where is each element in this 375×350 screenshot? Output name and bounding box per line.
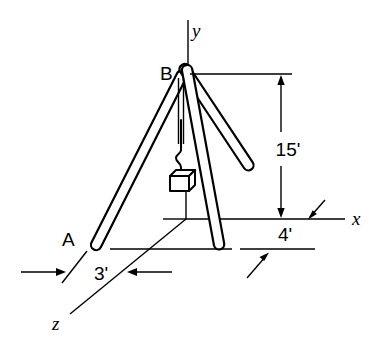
label-axis-y: y bbox=[190, 20, 201, 41]
dimension-label-15ft: 15' bbox=[276, 139, 301, 160]
dimension-3ft: 3' bbox=[21, 251, 172, 284]
arrowhead-3ft-left bbox=[56, 268, 66, 276]
tripod-legs bbox=[91, 64, 254, 250]
ext-tick-3ft-left bbox=[62, 251, 87, 283]
label-point-b: B bbox=[160, 63, 173, 84]
arrowhead-down-15ft bbox=[277, 208, 284, 218]
arrowhead-3ft-right bbox=[127, 268, 137, 276]
arrowhead-4ft-lower bbox=[260, 253, 270, 262]
leg-a bbox=[91, 71, 187, 250]
crate-front-face bbox=[170, 176, 189, 191]
dimension-label-4ft: 4' bbox=[278, 224, 292, 245]
label-axis-x: x bbox=[351, 208, 361, 229]
suspended-load bbox=[170, 170, 195, 191]
hook-icon bbox=[176, 150, 181, 172]
tripod-diagram: 15' 4' 3' B A x y bbox=[0, 0, 375, 350]
z-axis-line bbox=[70, 219, 186, 314]
arrowhead-up-15ft bbox=[277, 75, 284, 85]
label-point-a: A bbox=[62, 229, 75, 250]
figure-root: 15' 4' 3' B A x y bbox=[0, 0, 375, 350]
label-axis-z: z bbox=[51, 313, 60, 334]
dimension-label-3ft: 3' bbox=[94, 263, 108, 284]
